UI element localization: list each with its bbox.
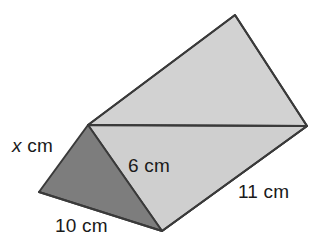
prism-diagram: x cm 6 cm 10 cm 11 cm [0,0,327,250]
label-x-unit-text: cm [27,135,53,156]
label-11-cm: 11 cm [238,182,289,201]
prism-drawing [0,0,327,250]
label-x-cm: x cm [12,136,53,155]
ridge-edge [88,125,307,126]
label-6-cm: 6 cm [128,156,170,175]
label-x-variable: x [12,135,22,156]
label-10-cm: 10 cm [55,216,108,235]
